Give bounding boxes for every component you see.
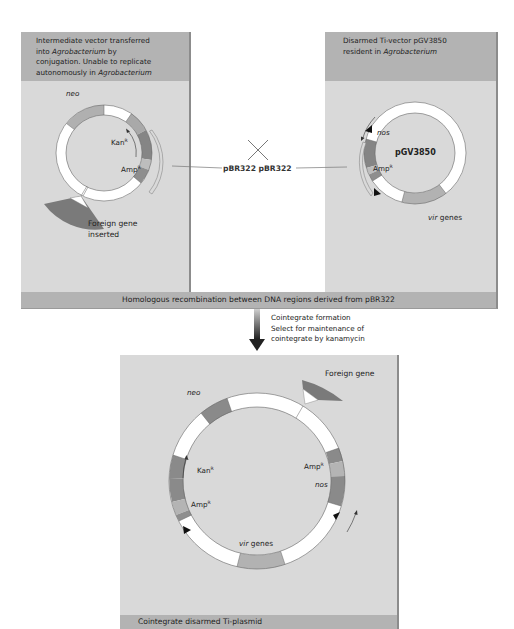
vir-genes-label: vir genes (239, 539, 273, 548)
amp-resistance-label: AmpR (121, 163, 141, 174)
pbr322-connector-right (296, 167, 347, 168)
kan-arrow-icon (128, 131, 136, 157)
amp-resistance-right-label: AmpR (304, 460, 324, 471)
amp-resistance-label: AmpR (373, 162, 393, 173)
crossover-x-icon (248, 140, 268, 160)
foreign-gene-inserted-label: Foreign gene inserted (88, 219, 138, 240)
process-description: Cointegrate formation Select for mainten… (271, 313, 365, 345)
kan-resistance-label: KanR (197, 464, 214, 475)
vir-genes-label: vir genes (428, 213, 462, 222)
nos-label: nos (315, 480, 328, 489)
pbr322-connector-left (172, 166, 222, 168)
kan-resistance-label: KanR (111, 136, 128, 147)
nos-label: nos (377, 128, 390, 137)
foreign-gene-label: Foreign gene (325, 369, 375, 378)
plasmid-name-label: pGV3850 (395, 148, 436, 157)
vir-genes-segment (402, 185, 446, 204)
pbr322-crossover-label: pBR322 pBR322 (223, 164, 292, 173)
kan-segment (137, 130, 152, 160)
amp-resistance-left-label: AmpR (191, 498, 211, 509)
neo-label: neo (66, 89, 79, 98)
direction-arrow-icon (347, 513, 356, 532)
process-arrow-icon (249, 309, 265, 351)
process-line-3: cointegrate by kanamycin (271, 334, 365, 345)
neo-label: neo (187, 388, 200, 397)
t-dna-border-triangle-icon (365, 125, 372, 133)
process-line-2: Select for maintenance of (271, 324, 365, 335)
intermediate-vector-plasmid (44, 105, 163, 230)
process-line-1: Cointegrate formation (271, 313, 365, 324)
